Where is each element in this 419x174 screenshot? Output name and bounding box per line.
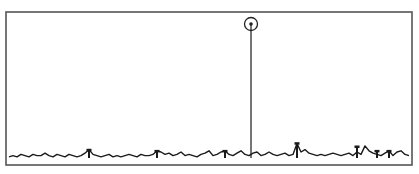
plot-frame <box>6 12 412 165</box>
minor-peak-cap <box>355 146 360 149</box>
signal-trace <box>9 144 409 157</box>
minor-peak-cap <box>87 149 92 152</box>
minor-peak-cap <box>295 142 300 145</box>
peak-dot-marker <box>249 22 253 26</box>
minor-peak-cap <box>155 150 160 153</box>
minor-peak-cap <box>387 150 392 153</box>
minor-peak-cap <box>375 150 380 153</box>
signal-plot <box>0 0 419 174</box>
chart-figure <box>0 0 419 174</box>
minor-peak-cap <box>223 150 228 153</box>
